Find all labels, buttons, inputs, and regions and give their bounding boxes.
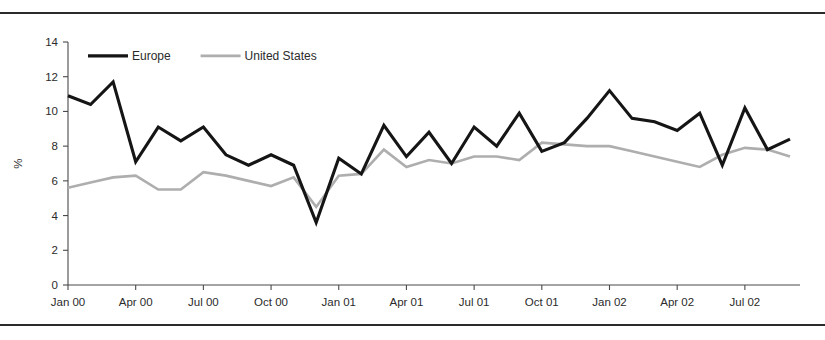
x-tick-label: Jul 00 <box>188 296 219 308</box>
y-tick-label: 0 <box>52 279 58 291</box>
legend-label-united-states: United States <box>245 49 317 63</box>
chart-legend: EuropeUnited States <box>88 49 317 63</box>
x-tick-label: Jul 02 <box>730 296 761 308</box>
y-tick-label: 14 <box>45 36 58 48</box>
y-axis-title-label: % <box>12 158 24 168</box>
data-series-group <box>68 82 790 223</box>
y-tick-label: 6 <box>52 175 58 187</box>
x-tick-label: Apr 02 <box>660 296 694 308</box>
x-tick-label: Apr 01 <box>389 296 423 308</box>
series-line-united-states <box>68 143 790 207</box>
x-tick-label: Jan 01 <box>321 296 356 308</box>
y-axis: 02468101214 <box>45 36 68 291</box>
x-tick-label: Oct 01 <box>525 296 559 308</box>
bottom-divider-rule <box>0 324 825 326</box>
top-divider-rule <box>0 12 825 14</box>
y-tick-label: 10 <box>45 105 58 117</box>
chart-figure: 02468101214 Jan 00Apr 00Jul 00Oct 00Jan … <box>0 0 825 340</box>
x-tick-label: Jul 01 <box>459 296 490 308</box>
x-tick-label: Jan 02 <box>592 296 627 308</box>
x-tick-label: Oct 00 <box>254 296 288 308</box>
y-tick-label: 4 <box>52 210 59 222</box>
series-line-europe <box>68 82 790 223</box>
y-tick-label: 12 <box>45 71 58 83</box>
plot-area: 02468101214 Jan 00Apr 00Jul 00Oct 00Jan … <box>0 18 825 318</box>
line-chart-svg: 02468101214 Jan 00Apr 00Jul 00Oct 00Jan … <box>0 18 825 318</box>
x-tick-label: Apr 00 <box>119 296 153 308</box>
x-axis: Jan 00Apr 00Jul 00Oct 00Jan 01Apr 01Jul … <box>51 285 800 308</box>
y-tick-label: 8 <box>52 140 58 152</box>
legend-label-europe: Europe <box>132 49 171 63</box>
y-axis-title: % <box>12 158 24 168</box>
y-tick-label: 2 <box>52 244 58 256</box>
x-tick-label: Jan 00 <box>51 296 86 308</box>
